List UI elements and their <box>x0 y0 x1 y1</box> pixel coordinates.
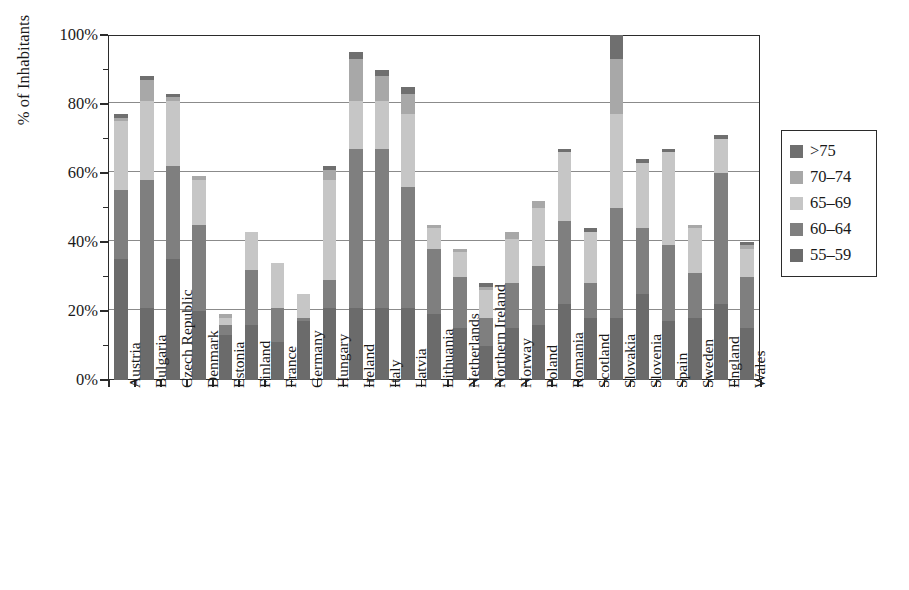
bar-group <box>375 35 389 380</box>
x-axis-category-label: Spain <box>674 353 690 388</box>
bar-segment-65-69 <box>271 263 285 308</box>
x-axis-labels: AustriaBulgariaCzech RepublicDenmarkEsto… <box>108 388 760 588</box>
bar-group <box>740 35 754 380</box>
bar-segment-60-64 <box>532 266 546 325</box>
y-tick-minor-10 <box>103 345 108 346</box>
bar-stack <box>349 52 363 380</box>
x-axis-category-label: England <box>726 336 742 388</box>
bar-segment-70-74 <box>349 59 363 100</box>
bar-segment-65-69 <box>192 180 206 225</box>
y-tick-minor-70 <box>103 138 108 139</box>
legend-label: >75 <box>810 143 836 160</box>
bar-group <box>584 35 598 380</box>
y-axis-labels: 0%20%40%60%80%100% <box>0 0 98 590</box>
bar-group <box>532 35 546 380</box>
bar-segment-65-69 <box>166 101 180 167</box>
bar-segment-60-64 <box>558 221 572 304</box>
bar-segment-60-64 <box>401 187 415 308</box>
x-axis-category-label: Sweden <box>700 339 716 388</box>
x-axis-category-label: Ireland <box>361 344 377 388</box>
bar-segment-60-64 <box>714 173 728 304</box>
bar-segment-65-69 <box>740 249 754 277</box>
x-axis-category-label: Poland <box>544 345 560 388</box>
bar-segment-70-74 <box>505 232 519 239</box>
bar-segment-60-64 <box>271 308 285 343</box>
bar-segment-60-64 <box>584 283 598 318</box>
bar-segment-70-74 <box>401 94 415 115</box>
legend-swatch-icon <box>790 171 803 184</box>
y-tick-major-40 <box>100 241 108 243</box>
bar-stack <box>375 70 389 380</box>
bar-segment->75 <box>610 35 624 59</box>
bar-stack <box>114 114 128 380</box>
bar-segment-60-64 <box>245 270 259 325</box>
bar-segment-65-69 <box>427 228 441 249</box>
x-axis-category-label: Czech Republic <box>179 289 195 388</box>
bar-segment-65-69 <box>297 294 311 318</box>
bar-segment-65-69 <box>636 163 650 229</box>
y-tick-minor-50 <box>103 207 108 208</box>
x-axis-category-label: Scotland <box>596 334 612 388</box>
legend-swatch-icon <box>790 197 803 210</box>
bar-segment->75 <box>401 87 415 94</box>
y-axis-tick-label: 0% <box>12 372 98 389</box>
bar-segment-70-74 <box>532 201 546 208</box>
bar-segment-60-64 <box>740 277 754 329</box>
bar-stack <box>610 35 624 380</box>
bar-segment-65-69 <box>349 101 363 149</box>
x-axis-category-label: Slovenia <box>648 334 664 388</box>
y-tick-major-60 <box>100 172 108 174</box>
bar-segment->75 <box>349 52 363 59</box>
legend-label: 70–74 <box>810 169 851 186</box>
x-tick <box>108 380 110 387</box>
x-axis-category-label: Wales <box>752 351 768 389</box>
x-axis-category-label: Denmark <box>205 330 221 388</box>
bar-group <box>114 35 128 380</box>
bar-group <box>401 35 415 380</box>
x-axis-category-label: France <box>283 346 299 388</box>
x-axis-category-label: Norway <box>518 338 534 388</box>
y-tick-minor-90 <box>103 69 108 70</box>
x-axis-category-label: Austria <box>127 342 143 388</box>
legend-swatch-icon <box>790 223 803 236</box>
bar-segment-65-69 <box>453 252 467 276</box>
bar-segment-65-69 <box>714 139 728 174</box>
bar-segment-65-69 <box>584 232 598 284</box>
bar-segment-60-64 <box>323 280 337 308</box>
x-axis-category-label: Slovakia <box>622 334 638 388</box>
bar-segment->75 <box>375 70 389 77</box>
y-tick-major-0 <box>100 379 108 381</box>
x-axis-category-label: Netherlands <box>466 313 482 388</box>
bars-layer <box>108 35 760 380</box>
stacked-bar-chart: % of Inhabitants 0%20%40%60%80%100% Aust… <box>0 0 909 590</box>
bar-group <box>662 35 676 380</box>
legend-label: 55–59 <box>810 247 851 264</box>
bar-segment-60-64 <box>610 208 624 318</box>
bar-segment-65-69 <box>505 239 519 284</box>
bar-segment-70-74 <box>140 80 154 101</box>
bar-group <box>245 35 259 380</box>
bar-group <box>688 35 702 380</box>
y-tick-major-80 <box>100 103 108 105</box>
x-axis-category-label: Lithuania <box>440 329 456 388</box>
bar-group <box>636 35 650 380</box>
y-tick-major-100 <box>100 34 108 36</box>
bar-segment-70-74 <box>323 170 337 180</box>
bar-segment-65-69 <box>401 114 415 186</box>
legend-label: 65–69 <box>810 195 851 212</box>
x-axis-category-label: Italy <box>387 360 403 388</box>
bar-segment-65-69 <box>245 232 259 270</box>
bar-segment-60-64 <box>166 166 180 259</box>
bar-segment-60-64 <box>140 180 154 308</box>
bar-segment-60-64 <box>636 228 650 294</box>
bar-group <box>558 35 572 380</box>
x-axis-category-label: Germany <box>309 330 325 388</box>
bar-segment-65-69 <box>375 101 389 149</box>
x-axis-category-label: Northern Ireland <box>492 284 508 388</box>
y-axis-tick-label: 20% <box>12 303 98 320</box>
bar-segment-60-64 <box>427 249 441 315</box>
bar-group <box>610 35 624 380</box>
legend-item: 60–64 <box>790 216 868 242</box>
legend-item: >75 <box>790 138 868 164</box>
y-axis-tick-label: 80% <box>12 96 98 113</box>
